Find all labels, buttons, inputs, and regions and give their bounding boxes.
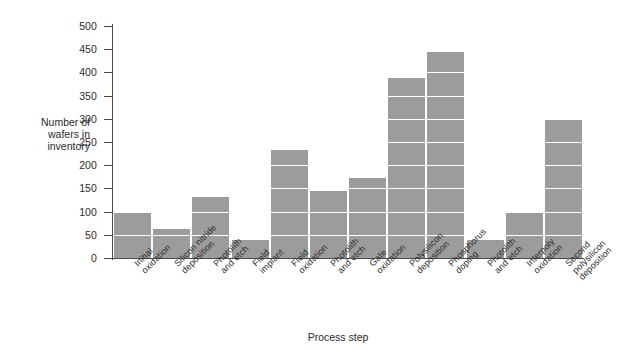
bar xyxy=(387,78,426,258)
y-axis-tick xyxy=(104,119,112,120)
y-axis-tick xyxy=(104,212,112,213)
y-axis-tick xyxy=(104,72,112,73)
y-axis-tick-label: 400 xyxy=(79,67,97,77)
y-axis-tick xyxy=(104,49,112,50)
plot-area xyxy=(113,26,583,258)
y-axis-tick xyxy=(104,235,112,236)
y-axis-tick xyxy=(104,96,112,97)
y-axis-tick-label: 300 xyxy=(79,114,97,124)
y-axis-tick-label: 450 xyxy=(79,44,97,54)
y-axis-tick-label: 0 xyxy=(91,253,97,263)
gridline xyxy=(113,188,583,189)
y-axis-title: Number of wafers in inventory xyxy=(8,116,90,152)
gridline xyxy=(113,49,583,50)
gridline xyxy=(113,235,583,236)
y-axis-tick-label: 500 xyxy=(79,21,97,31)
y-axis-tick xyxy=(104,258,112,259)
y-axis-tick-label: 200 xyxy=(79,160,97,170)
y-axis-tick-label: 350 xyxy=(79,91,97,101)
y-axis-tick xyxy=(104,188,112,189)
x-axis-title: Process step xyxy=(0,331,626,343)
bar xyxy=(270,150,309,258)
gridline xyxy=(113,119,583,120)
gridline xyxy=(113,72,583,73)
gridline xyxy=(113,165,583,166)
y-axis-tick xyxy=(104,26,112,27)
x-axis-title-text: Process step xyxy=(308,331,369,343)
y-axis-tick-label: 50 xyxy=(85,230,97,240)
y-axis-tick xyxy=(104,142,112,143)
gridline xyxy=(113,26,583,27)
gridline xyxy=(113,96,583,97)
bar-chart-figure: Number of wafers in inventory 0501001502… xyxy=(0,0,626,350)
gridline xyxy=(113,142,583,143)
y-axis-tick xyxy=(104,165,112,166)
bar xyxy=(426,52,465,258)
y-axis-tick-label: 150 xyxy=(79,183,97,193)
y-axis-tick-label: 100 xyxy=(79,207,97,217)
gridline xyxy=(113,212,583,213)
y-axis-tick-label: 250 xyxy=(79,137,97,147)
